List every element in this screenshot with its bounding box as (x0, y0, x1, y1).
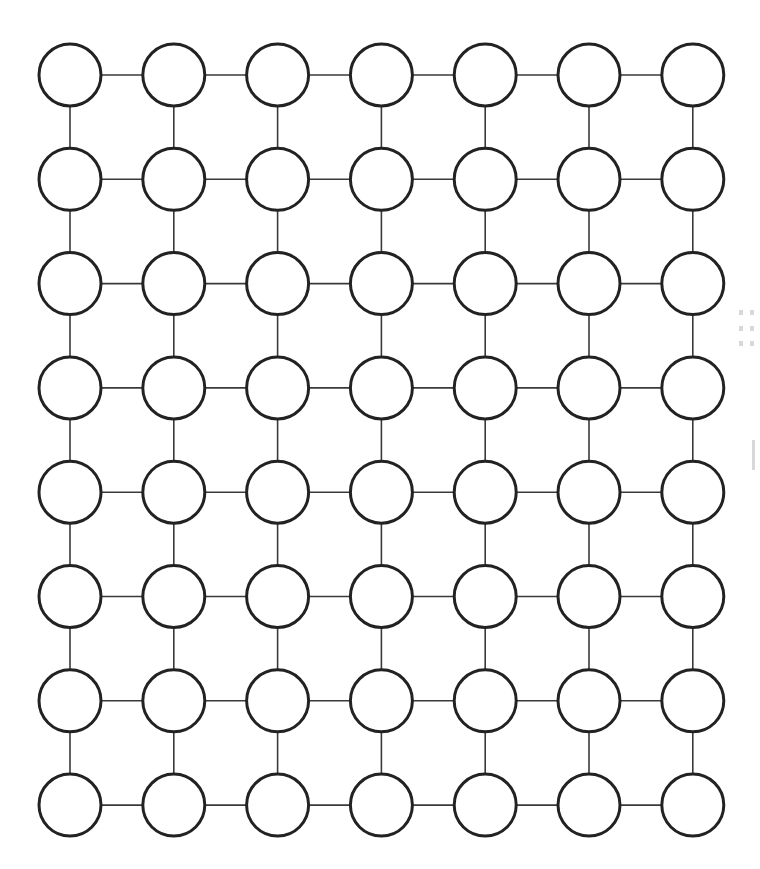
grid-node (247, 44, 309, 106)
grid-node (454, 566, 516, 628)
grid-node (247, 357, 309, 419)
grid-node (662, 357, 724, 419)
grid-node (558, 461, 620, 523)
grid-node (454, 148, 516, 210)
scan-speck (750, 326, 754, 331)
grid-node (454, 357, 516, 419)
grid-node (39, 44, 101, 106)
grid-node (39, 566, 101, 628)
grid-node (558, 670, 620, 732)
grid-node (39, 774, 101, 836)
scan-speck (750, 341, 754, 346)
scan-artifacts (739, 310, 755, 470)
grid-node (454, 461, 516, 523)
grid-node (454, 44, 516, 106)
grid-node (247, 670, 309, 732)
grid-node (662, 148, 724, 210)
grid-node (350, 253, 412, 315)
grid-node (143, 566, 205, 628)
grid-node (39, 461, 101, 523)
grid-node (558, 566, 620, 628)
grid-node (350, 148, 412, 210)
grid-node (39, 148, 101, 210)
grid-node (143, 44, 205, 106)
grid-node (558, 44, 620, 106)
grid-node (143, 670, 205, 732)
grid-node (558, 148, 620, 210)
scan-speck (750, 310, 754, 315)
grid-node (247, 774, 309, 836)
grid-node (247, 253, 309, 315)
grid-node (143, 148, 205, 210)
grid-node (558, 253, 620, 315)
grid-node (662, 253, 724, 315)
grid-node (247, 566, 309, 628)
scan-speck (752, 440, 755, 470)
grid-node (143, 253, 205, 315)
grid-node (39, 670, 101, 732)
grid-node (247, 461, 309, 523)
grid-node (558, 774, 620, 836)
grid-node (143, 461, 205, 523)
grid-node (350, 461, 412, 523)
grid-node (662, 774, 724, 836)
grid-node (247, 148, 309, 210)
grid-node (350, 670, 412, 732)
grid-node (350, 566, 412, 628)
grid-node (454, 670, 516, 732)
grid-node (558, 357, 620, 419)
grid-node (350, 357, 412, 419)
scan-speck (739, 341, 743, 346)
grid-node (662, 566, 724, 628)
grid-node (350, 774, 412, 836)
scan-speck (739, 310, 743, 315)
grid-node (39, 357, 101, 419)
grid-node (662, 670, 724, 732)
grid-node (662, 461, 724, 523)
grid-node (350, 44, 412, 106)
grid-node (662, 44, 724, 106)
grid-node (39, 253, 101, 315)
scan-speck (739, 326, 743, 331)
grid-node (454, 253, 516, 315)
grid-graph (0, 0, 760, 869)
grid-node (143, 774, 205, 836)
grid-node (454, 774, 516, 836)
grid-node (143, 357, 205, 419)
